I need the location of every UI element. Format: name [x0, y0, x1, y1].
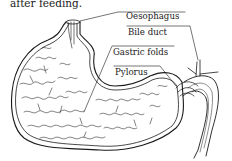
- label-bile-duct: Bile duct: [128, 27, 167, 37]
- stomach-inner-wall: [16, 24, 179, 146]
- stomach-illustration: [0, 0, 232, 161]
- duodenum: [183, 76, 218, 158]
- stomach-outer-wall: [12, 22, 184, 150]
- bile-duct-tube: [188, 60, 218, 76]
- label-oesophagus: Oesophagus: [126, 11, 179, 21]
- label-pylorus: Pylorus: [115, 67, 148, 77]
- label-gastric-folds: Gastric folds: [113, 47, 168, 57]
